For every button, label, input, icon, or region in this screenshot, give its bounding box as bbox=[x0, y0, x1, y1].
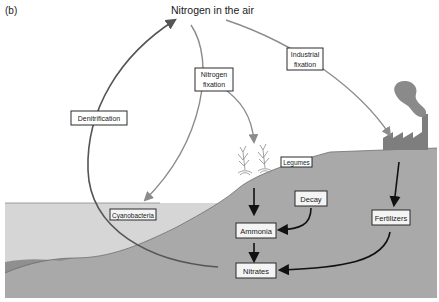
industrial-fixation-arrow bbox=[226, 20, 390, 135]
nitrogen-fixation-text-line2: fixation bbox=[203, 81, 225, 88]
legumes-text: Legumes bbox=[283, 159, 310, 167]
industrial-fixation-label: Industrial fixation bbox=[287, 48, 323, 70]
cyanobacteria-text: Cyanobacteria bbox=[112, 212, 154, 220]
diagram-canvas: (b) Nitrogen in the air Denitrification … bbox=[0, 0, 439, 302]
decay-text: Decay bbox=[300, 195, 322, 204]
legume-plant-icon bbox=[258, 144, 272, 173]
ammonia-label: Ammonia bbox=[236, 223, 276, 238]
smoke-icon bbox=[394, 81, 426, 117]
cyanobacteria-label: Cyanobacteria bbox=[110, 209, 156, 220]
nitrogen-fixation-to-cyanobacteria-arrow bbox=[145, 25, 203, 200]
nitrogen-cycle-diagram: (b) Nitrogen in the air Denitrification … bbox=[0, 0, 439, 302]
legumes-label: Legumes bbox=[281, 157, 312, 167]
nitrates-label: Nitrates bbox=[236, 263, 276, 278]
diagram-title: Nitrogen in the air bbox=[171, 4, 254, 16]
nitrogen-fixation-label: Nitrogen fixation bbox=[195, 68, 233, 91]
denitrification-text: Denitrification bbox=[78, 115, 121, 122]
nitrates-text: Nitrates bbox=[243, 267, 269, 276]
industrial-fixation-text-line1: Industrial bbox=[291, 51, 320, 58]
panel-label: (b) bbox=[5, 5, 17, 16]
factory-icon bbox=[383, 81, 428, 150]
decay-label: Decay bbox=[295, 191, 327, 206]
nitrogen-fixation-text-line1: Nitrogen bbox=[201, 71, 228, 79]
industrial-fixation-text-line2: fixation bbox=[294, 61, 316, 68]
legume-plant-icon bbox=[238, 146, 252, 175]
nitrogen-fixation-to-legumes-arrow bbox=[222, 87, 254, 142]
fertilizers-label: Fertilizers bbox=[372, 210, 410, 225]
denitrification-label: Denitrification bbox=[71, 111, 127, 125]
fertilizers-text: Fertilizers bbox=[375, 214, 408, 223]
ammonia-text: Ammonia bbox=[240, 227, 273, 236]
